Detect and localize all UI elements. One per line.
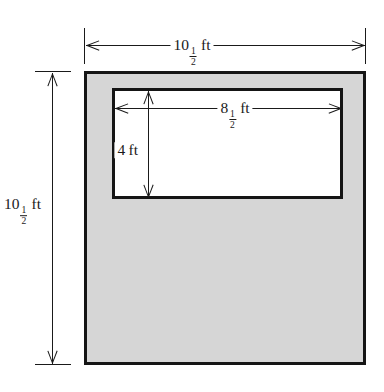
fraction-one-half: 12 [229, 109, 236, 130]
left-dimension-tick-bottom [35, 364, 71, 365]
left-dimension-line [52, 73, 53, 364]
inner-height-label: 4ft [114, 142, 141, 158]
fraction-one-half: 12 [190, 46, 197, 67]
top-dimension-label: 1012ft [171, 37, 214, 67]
left-dimension-label: 1012ft [1, 196, 44, 226]
inner-height-dimension-line [148, 91, 149, 197]
fraction-one-half: 12 [20, 205, 27, 226]
inner-width-label: 812ft [217, 100, 252, 130]
top-dimension-line [86, 45, 365, 46]
top-dimension-tick-right [365, 28, 366, 64]
top-dimension-tick-left [84, 28, 85, 64]
geometry-figure: 1012ft 1012ft 812ft 4ft [0, 0, 384, 392]
left-dimension-tick-top [35, 71, 71, 72]
